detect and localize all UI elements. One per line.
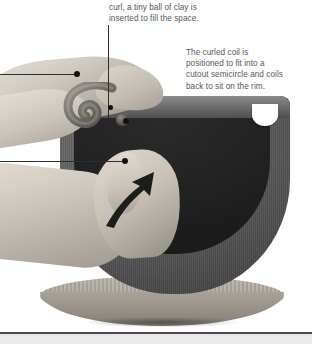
caption-clay-ball: curl, a tiny ball of clay is inserted to… — [109, 2, 239, 24]
leader-dot-rim-notch — [123, 118, 129, 124]
leader-dot-lower-hand — [122, 158, 128, 164]
figure-plate: curl, a tiny ball of clay is inserted to… — [0, 0, 312, 344]
cutout-semicircle-notch — [252, 104, 278, 126]
leader-dot-clay-ball — [108, 105, 113, 110]
leader-line-upper-hand — [0, 74, 78, 75]
banding-wheel-shadow — [56, 316, 268, 330]
leader-dot-upper-hand — [74, 71, 80, 77]
bottom-band — [0, 334, 312, 344]
upward-pressing-arrow — [100, 168, 160, 230]
caption-curled-coil: The curled coil is positioned to fit int… — [186, 47, 310, 92]
leader-line-to-clay-ball — [108, 25, 109, 118]
leader-line-lower-hand — [0, 161, 126, 162]
